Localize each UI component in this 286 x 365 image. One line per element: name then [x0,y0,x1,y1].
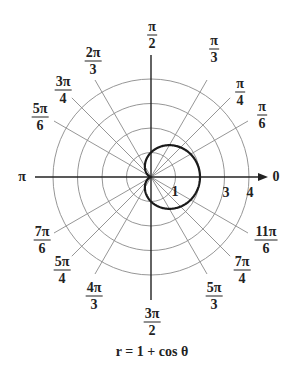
label-denominator: 3 [210,50,217,65]
label-denominator: 4 [58,271,65,286]
chart-caption: r = 1 + cos θ [116,344,188,360]
angle-0-label: 0 [273,169,280,185]
angle-5pi-4-label: 5π4 [54,255,71,286]
label-numerator: 7π [34,225,51,241]
label-denominator: 2 [148,323,155,338]
caption-text: r = 1 + cos θ [116,344,188,359]
radial-line-45 [151,98,230,177]
label-numerator: 3π [55,75,72,91]
angle-pi-6-label: π6 [257,100,267,131]
angle-pi-4-label: π4 [235,77,245,108]
angle-5pi-3-label: 5π3 [206,281,223,312]
label-numerator: π [235,77,245,93]
label-denominator: 6 [38,241,45,256]
label-denominator: 6 [263,241,270,256]
angle-3pi-2-label: 3π2 [144,307,161,338]
label-denominator: 6 [258,116,265,131]
angle-11pi-6-label: 11π6 [255,225,278,256]
angle-4pi-3-label: 4π3 [86,281,103,312]
label-denominator: 2 [148,36,155,51]
radial-line-315 [151,177,230,256]
angle-5pi-6-label: 5π6 [32,102,49,133]
label-denominator: 4 [236,93,243,108]
angle-pi-3-label: π3 [209,34,219,65]
label-denominator: 3 [210,297,217,312]
label-denominator: 3 [89,62,96,77]
angle-7pi-4-label: 7π4 [234,255,251,286]
label-denominator: 4 [59,91,66,106]
label-numerator: π [209,34,219,50]
label-numerator: 4π [86,281,103,297]
angle-pi-label: π [18,169,26,185]
angle-2pi-3-label: 2π3 [85,46,102,77]
label-numerator: 5π [54,255,71,271]
angle-pi-2-label: π2 [147,20,157,51]
label-denominator: 3 [90,297,97,312]
label-numerator: π [257,100,267,116]
ring-label-4: 4 [247,185,254,201]
label-denominator: 6 [36,118,43,133]
label-numerator: 2π [85,46,102,62]
angle-7pi-6-label: 7π6 [34,225,51,256]
radial-line-225 [72,177,151,256]
radial-line-135 [72,98,151,177]
label-numerator: 5π [206,281,223,297]
ring-label-1: 1 [172,184,179,200]
label-denominator: 4 [238,271,245,286]
label-numerator: 3π [144,307,161,323]
angle-3pi-4-label: 3π4 [55,75,72,106]
ring-label-3: 3 [223,185,230,201]
label-numerator: π [147,20,157,36]
label-numerator: 11π [255,225,278,241]
arrowhead-icon [258,173,268,181]
label-numerator: 5π [32,102,49,118]
label-numerator: 7π [234,255,251,271]
